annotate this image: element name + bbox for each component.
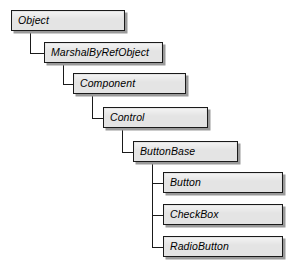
class-node-label: CheckBox bbox=[164, 209, 219, 220]
class-node-component[interactable]: Component bbox=[73, 73, 186, 94]
class-node-label: ButtonBase bbox=[134, 146, 195, 157]
class-node-marshalbyrefobject[interactable]: MarshalByRefObject bbox=[44, 42, 163, 63]
class-node-checkbox[interactable]: CheckBox bbox=[163, 204, 283, 225]
connector-layer bbox=[0, 0, 294, 267]
class-node-buttonbase[interactable]: ButtonBase bbox=[133, 141, 238, 162]
class-node-button[interactable]: Button bbox=[163, 172, 283, 193]
class-node-control[interactable]: Control bbox=[103, 107, 208, 128]
class-node-object[interactable]: Object bbox=[11, 10, 125, 31]
class-node-label: Button bbox=[164, 177, 201, 188]
class-node-label: RadioButton bbox=[164, 241, 229, 252]
class-node-label: Control bbox=[104, 112, 145, 123]
class-node-label: Component bbox=[74, 78, 135, 89]
class-node-radiobutton[interactable]: RadioButton bbox=[163, 236, 283, 257]
class-hierarchy-diagram: Object MarshalByRefObject Component Cont… bbox=[0, 0, 294, 267]
class-node-label: Object bbox=[12, 15, 49, 26]
class-node-label: MarshalByRefObject bbox=[45, 47, 149, 58]
